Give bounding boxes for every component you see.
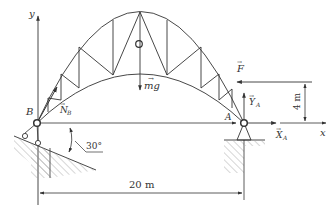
height-dimension: 4 m	[292, 84, 305, 121]
height-label: 4 m	[292, 92, 302, 110]
ya-vector-arrow: →	[249, 92, 254, 99]
support-b: B	[14, 106, 96, 178]
normal-b-vector-arrow: →	[60, 100, 65, 107]
pin-a-icon	[241, 120, 248, 127]
support-a: A	[224, 112, 265, 200]
xa-vector-arrow: →	[276, 125, 281, 132]
xa-subscript: A	[282, 134, 288, 141]
ya-subscript: A	[255, 101, 261, 108]
x-axis-label: x	[320, 127, 326, 138]
angle-label: 30°	[86, 141, 102, 151]
weight-vector: mg →	[136, 12, 160, 91]
force-f: F →	[236, 58, 312, 82]
diagram-canvas: y x mg → N B →	[0, 0, 332, 215]
span-label: 20 m	[129, 179, 155, 190]
point-b-label: B	[25, 106, 33, 117]
reaction-ya: Y A →	[244, 92, 261, 119]
center-of-mass-icon	[136, 41, 143, 48]
f-vector-arrow: →	[237, 58, 242, 65]
span-dimension: 20 m	[40, 179, 242, 193]
arch-truss	[37, 12, 244, 124]
point-a-label: A	[224, 112, 232, 122]
reaction-xa: X A →	[248, 123, 288, 141]
normal-b-subscript: B	[66, 109, 72, 116]
arch-truss-diagram: y x mg → N B →	[0, 0, 332, 215]
y-axis-label: y	[28, 8, 35, 19]
outer-chord	[37, 12, 244, 124]
angle-30: 30°	[69, 128, 103, 152]
weight-vector-arrow: →	[148, 75, 154, 83]
pin-b-icon	[34, 120, 41, 127]
